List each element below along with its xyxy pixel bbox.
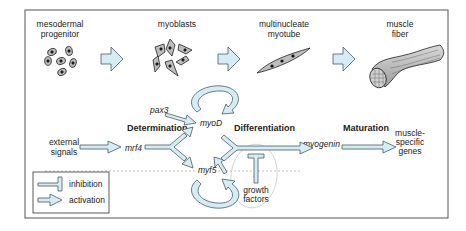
gene-mrf4: mrf4 xyxy=(125,143,142,153)
stage-label-fiber: fiber xyxy=(392,29,409,39)
stage-label-muscle: muscle xyxy=(387,19,414,29)
phase-determination: Determination xyxy=(127,123,188,133)
myogenesis-diagram: mesodermal progenitor myoblasts multinuc… xyxy=(0,0,466,231)
gene-myf5: myf5 xyxy=(198,165,217,175)
stage-label-progenitor: progenitor xyxy=(41,29,79,39)
legend-activation: activation xyxy=(69,195,105,205)
phase-differentiation: Differentiation xyxy=(234,123,295,133)
input-external: external xyxy=(49,137,79,147)
output-genes: genes xyxy=(398,146,421,156)
legend-inhibition: inhibition xyxy=(69,179,103,189)
stage-label-mesodermal: mesodermal xyxy=(37,19,84,29)
stage-label-myotube: myotube xyxy=(268,29,301,39)
stage-label-multinucleate: multinucleate xyxy=(259,19,309,29)
input-signals: signals xyxy=(51,147,77,157)
stage-label-myoblasts: myoblasts xyxy=(158,19,196,29)
gene-myoD: myoD xyxy=(200,118,222,128)
phase-maturation: Maturation xyxy=(343,123,389,133)
legend: inhibition activation xyxy=(33,172,109,213)
